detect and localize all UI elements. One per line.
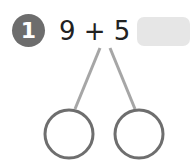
math-problem: 1 9 + 5 =	[0, 0, 193, 162]
bond-part-circle-left[interactable]	[45, 110, 93, 158]
bond-line-left	[75, 48, 100, 109]
bond-line-right	[110, 48, 135, 109]
number-bond-diagram	[0, 0, 193, 162]
bond-part-circle-right[interactable]	[115, 110, 163, 158]
